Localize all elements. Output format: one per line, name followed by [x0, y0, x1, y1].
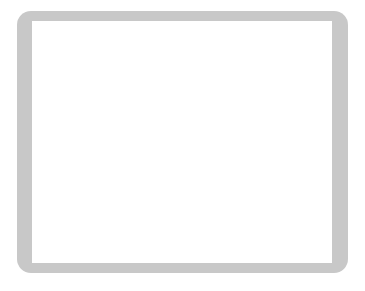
go-board-screenshot — [0, 0, 365, 291]
board-grid — [0, 0, 365, 291]
